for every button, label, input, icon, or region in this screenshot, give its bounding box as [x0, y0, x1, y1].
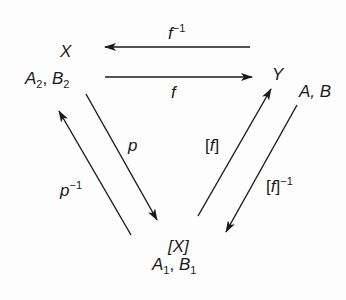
node-x-attributes: A2, B2 [25, 70, 69, 90]
node-y-symbol: Y [272, 65, 283, 84]
label-superscript: −1 [69, 179, 82, 191]
attr-b: B [179, 255, 190, 274]
arrow-p [86, 94, 157, 220]
node-y: Y [272, 66, 283, 83]
separator: , [169, 255, 178, 274]
label-p: p [128, 137, 137, 154]
label-f: f [171, 84, 176, 101]
attr-b-subscript: 2 [63, 78, 69, 90]
node-x: X [60, 43, 71, 60]
separator: , [42, 69, 51, 88]
label-superscript: −1 [173, 22, 186, 34]
commutative-diagram: X A2, B2 Y A, B [X] A1, B1 f−1 f p p−1 [… [0, 0, 346, 300]
node-equivalence-class: [X] [168, 238, 189, 255]
label-text: p [128, 136, 137, 155]
node-eq-symbol: [X] [168, 237, 189, 256]
node-equivalence-class-attributes: A1, B1 [152, 256, 196, 276]
label-bracket-f: [f] [205, 137, 219, 154]
label-bracket-f-inverse: [f]−1 [266, 176, 293, 195]
attr-b-subscript: 1 [190, 264, 196, 276]
label-f-inverse: f−1 [168, 23, 185, 42]
label-text: f [171, 83, 176, 102]
label-superscript: −1 [280, 175, 293, 187]
attr-b: B [52, 69, 63, 88]
attr-a: A [152, 255, 163, 274]
label-p-inverse: p−1 [60, 180, 82, 199]
node-y-label: A, B [299, 82, 331, 101]
node-x-symbol: X [60, 42, 71, 61]
node-y-attributes: A, B [299, 83, 331, 100]
attr-a: A [25, 69, 36, 88]
arrow-p-inverse [59, 111, 131, 235]
arrow-bracket-f-inverse [226, 105, 297, 232]
bracket-close: ] [214, 136, 219, 155]
